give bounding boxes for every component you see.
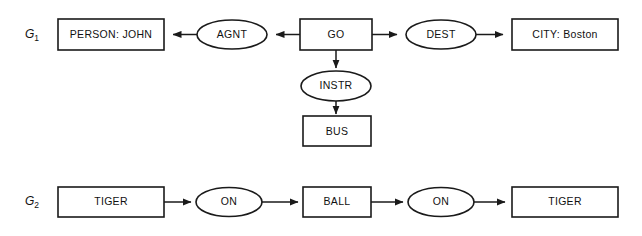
graph-label-g1-subscript: 1	[34, 33, 39, 43]
graph-label-g2: G2	[25, 194, 39, 210]
concept-person-john-label: PERSON: JOHN	[70, 28, 152, 40]
relation-on-left-label: ON	[221, 195, 237, 207]
graph-g2: G2 TIGER ON BALL ON TIGER	[25, 187, 618, 217]
graph-label-g1: G1	[25, 27, 39, 43]
conceptual-graph-figure: G1 PERSON: JOHN AGNT GO DEST CITY: Bosto…	[0, 0, 642, 236]
graph-label-g1-base: G	[25, 27, 34, 41]
concept-tiger-left-label: TIGER	[94, 195, 128, 207]
graph-g1: G1 PERSON: JOHN AGNT GO DEST CITY: Bosto…	[25, 19, 618, 146]
relation-instr-label: INSTR	[320, 79, 353, 91]
graph-label-g2-base: G	[25, 194, 34, 208]
concept-ball-label: BALL	[324, 195, 351, 207]
graph-label-g2-subscript: 2	[34, 200, 39, 210]
concept-bus-label: BUS	[326, 125, 349, 137]
relation-on-right-label: ON	[433, 195, 449, 207]
concept-go-label: GO	[328, 28, 345, 40]
relation-dest-label: DEST	[426, 28, 455, 40]
concept-city-boston-label: CITY: Boston	[532, 28, 597, 40]
concept-tiger-right-label: TIGER	[548, 195, 582, 207]
relation-agnt-label: AGNT	[217, 28, 248, 40]
